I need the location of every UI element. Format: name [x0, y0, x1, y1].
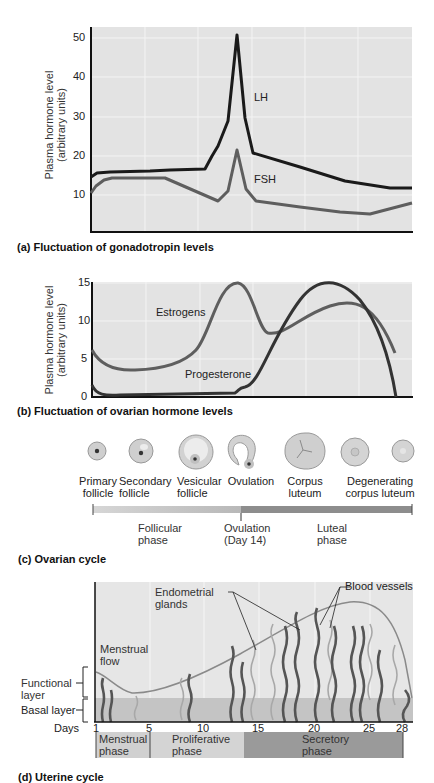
ovulation-icon — [228, 435, 255, 469]
phase-line1: Menstrual — [99, 733, 149, 745]
phase-line1: Secretory — [302, 733, 362, 745]
estrogens-label: Estrogens — [156, 306, 206, 318]
annotation-line2: flow — [100, 655, 160, 667]
regressed-corpus-luteum-icon — [392, 440, 414, 462]
phase-line1: Luteal — [317, 522, 357, 534]
fsh-label: FSH — [254, 173, 276, 185]
stage-corpus-luteum: Corpus luteum — [283, 475, 327, 499]
layer-brackets — [76, 667, 88, 722]
chart-a — [90, 27, 413, 233]
y-label-line1: Plasma hormone level — [43, 270, 55, 410]
phase-line2: phase — [317, 534, 357, 546]
annotation-line1: Menstrual — [100, 643, 160, 655]
phase-line1: Ovulation — [224, 522, 284, 534]
day-tick: 28 — [396, 722, 408, 734]
y-label-line2: (arbitrary units) — [55, 270, 67, 410]
chart-a-ytick: 30 — [73, 110, 85, 122]
stage-line1: Degenerating — [340, 475, 420, 487]
stage-line2: follicle — [77, 487, 119, 499]
degenerating-corpus-luteum-icon — [341, 438, 369, 466]
basal-layer — [95, 698, 413, 722]
annotation-line1: Functional — [21, 677, 76, 689]
stage-line2: follicle — [119, 487, 171, 499]
phase-line2: phase — [172, 745, 242, 757]
stage-line2: corpus luteum — [340, 487, 420, 499]
stage-line1: Secondary — [119, 475, 171, 487]
chart-b-ytick: 10 — [78, 314, 90, 326]
progesterone-label: Progesterone — [185, 368, 251, 380]
corpus-luteum-icon — [285, 433, 325, 469]
stage-line1: Primary — [77, 475, 119, 487]
ovulation-day-label: Ovulation (Day 14) — [224, 522, 284, 546]
day-tick: 15 — [252, 722, 264, 734]
endometrial-glands-label: Endometrial glands — [155, 586, 225, 610]
stage-degenerating-corpus-luteum: Degenerating corpus luteum — [340, 475, 420, 499]
chart-a-ytick: 20 — [73, 149, 85, 161]
stage-line1: Vesicular — [177, 475, 222, 487]
annotation-line1: Endometrial — [155, 586, 225, 598]
phase-line2: phase — [138, 534, 198, 546]
chart-b-ytick: 5 — [81, 352, 87, 364]
basal-layer-label: Basal layer — [21, 704, 75, 716]
functional-layer-label: Functional layer — [21, 677, 76, 701]
annotation-line2: glands — [155, 598, 225, 610]
chart-b-y-axis-label: Plasma hormone level (arbitrary units) — [43, 270, 67, 410]
caption-c: (c) Ovarian cycle — [18, 553, 106, 565]
chart-a-y-axis-label: Plasma hormone level (arbitrary units) — [43, 55, 67, 195]
chart-b-ytick: 0 — [81, 390, 87, 402]
phase-line1: Proliferative — [172, 733, 242, 745]
y-label-line1: Plasma hormone level — [43, 55, 55, 195]
chart-a-ytick: 50 — [73, 31, 85, 43]
day-tick: 25 — [363, 722, 375, 734]
menstrual-flow-label: Menstrual flow — [100, 643, 160, 667]
menstrual-phase-label: Menstrual phase — [99, 733, 149, 757]
follicular-phase-label: Follicular phase — [138, 522, 198, 546]
chart-b — [91, 282, 413, 398]
luteal-phase-bar — [241, 506, 412, 513]
stage-line2: luteum — [283, 487, 327, 499]
ovarian-phase-bar — [93, 504, 412, 521]
secretory-phase-label: Secretory phase — [302, 733, 362, 757]
lh-label: LH — [254, 91, 268, 103]
secondary-follicle-icon — [129, 439, 153, 463]
annotation-line2: layer — [21, 689, 76, 701]
chart-a-ytick: 40 — [73, 70, 85, 82]
phase-line2: phase — [99, 745, 149, 757]
phase-line2: (Day 14) — [224, 534, 284, 546]
stage-ovulation: Ovulation — [225, 475, 277, 487]
primary-follicle-icon — [88, 442, 106, 460]
caption-b: (b) Fluctuation of ovarian hormone level… — [17, 405, 233, 417]
stage-line2: follicle — [177, 487, 222, 499]
stage-line1: Ovulation — [225, 475, 277, 487]
luteal-phase-label: Luteal phase — [317, 522, 357, 546]
stage-primary-follicle: Primary follicle — [77, 475, 119, 499]
follicular-phase-bar — [93, 506, 241, 513]
y-label-line2: (arbitrary units) — [55, 55, 67, 195]
stage-line1: Corpus — [283, 475, 327, 487]
ovarian-stages — [88, 433, 414, 469]
chart-b-ytick: 15 — [78, 276, 90, 288]
chart-a-ytick: 10 — [73, 188, 85, 200]
blood-vessels-label: Blood vessels — [345, 580, 413, 592]
phase-line2: phase — [302, 745, 362, 757]
caption-d: (d) Uterine cycle — [18, 771, 104, 783]
vesicular-follicle-icon — [179, 435, 213, 469]
stage-secondary-follicle: Secondary follicle — [119, 475, 171, 499]
caption-a: (a) Fluctuation of gonadotropin levels — [17, 241, 214, 253]
proliferative-phase-label: Proliferative phase — [172, 733, 242, 757]
days-label: Days — [54, 722, 79, 734]
stage-vesicular-follicle: Vesicular follicle — [177, 475, 222, 499]
phase-line1: Follicular — [138, 522, 198, 534]
